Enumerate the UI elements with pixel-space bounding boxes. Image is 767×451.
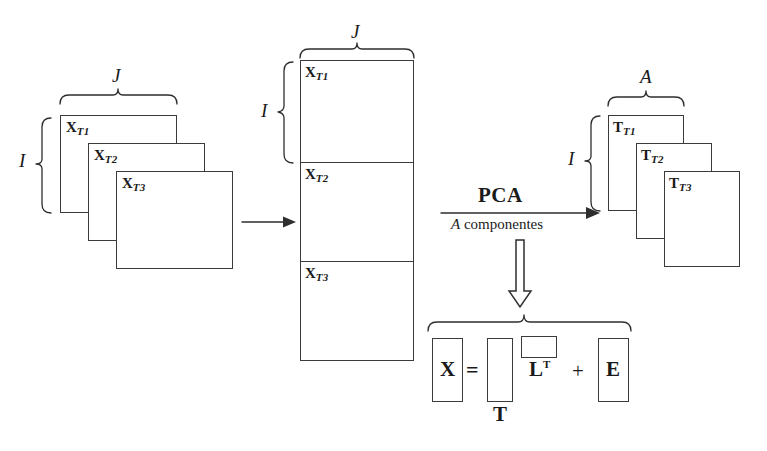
unfolded-block-3-label: XT3: [305, 266, 328, 281]
equation-l-transpose-label: LT: [529, 359, 550, 380]
middle-top-brace-j: [300, 43, 414, 58]
equation-top-brace: [428, 315, 631, 331]
left-side-brace-i: [36, 118, 51, 213]
slab-x-t3-label: XT3: [122, 176, 145, 191]
equation-e-label: E: [606, 359, 620, 380]
unfolded-block-2-label: XT2: [305, 167, 328, 182]
equation-t-caption: T: [493, 404, 507, 425]
left-brace-i-label: I: [19, 151, 25, 170]
right-brace-i-label: I: [568, 149, 574, 168]
left-top-brace-j: [60, 89, 177, 104]
slab-t-t1-label: TT1: [613, 120, 636, 135]
right-top-brace-a: [608, 91, 684, 106]
unfold-arrow: [242, 217, 296, 228]
slab-x-t1-label: XT1: [66, 120, 89, 135]
slab-t-t2-label: TT2: [641, 148, 664, 163]
slab-t-t3-label: TT3: [669, 176, 692, 191]
diagram-canvas: XT1 XT2 XT3 J I XT1 XT2 XT3 J I PCA A co…: [0, 0, 767, 451]
equation-x-label: X: [440, 359, 455, 380]
decomposition-down-arrow: [509, 240, 531, 307]
unfolded-block-1-label: XT1: [305, 65, 328, 80]
equation-l-transpose-box: [521, 336, 557, 358]
right-brace-a-label: A: [640, 67, 652, 86]
equation-equals-sign: =: [466, 359, 479, 381]
equation-t-box: [487, 338, 513, 402]
slab-x-t2-label: XT2: [94, 148, 117, 163]
equation-plus-sign: +: [572, 361, 584, 382]
left-brace-j-label: J: [112, 66, 120, 85]
pca-label: PCA: [478, 185, 523, 206]
middle-brace-j-label: J: [351, 22, 359, 41]
pca-components-label: A componentes: [451, 217, 543, 232]
middle-side-brace-i: [278, 62, 293, 163]
middle-brace-i-label: I: [261, 101, 267, 120]
right-side-brace-i: [585, 116, 600, 211]
